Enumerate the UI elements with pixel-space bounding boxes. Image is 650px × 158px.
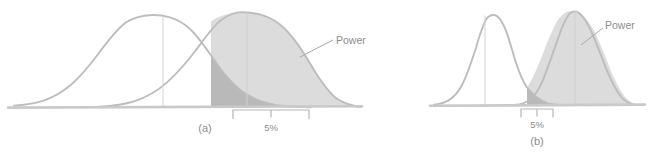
panel-b-baseline — [430, 105, 645, 106]
panel-a-power-leader-line — [300, 40, 333, 57]
panel-b-alpha-label: 5% — [530, 119, 544, 130]
panel-a-caption: (a) — [198, 122, 211, 134]
panel-a: Power 5% (a) — [8, 12, 366, 134]
panel-a-baseline — [8, 106, 362, 107]
panel-a-alpha-bracket — [233, 110, 309, 119]
panel-a-alpha-label: 5% — [264, 122, 278, 133]
panel-a-power-label: Power — [336, 34, 366, 46]
panel-b-power-label: Power — [605, 19, 635, 31]
panel-b-alpha-bracket — [521, 109, 553, 117]
panel-b-caption: (b) — [530, 135, 543, 147]
power-illustration-figure: Power 5% (a) Power 5% (b) — [0, 0, 650, 158]
panel-b: Power 5% (b) — [430, 11, 645, 147]
